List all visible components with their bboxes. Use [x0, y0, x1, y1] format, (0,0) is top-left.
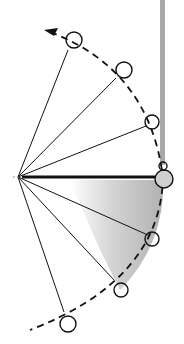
wall-strip: [160, 0, 165, 165]
bob-2: [116, 62, 132, 78]
bob-7: [60, 316, 76, 332]
bob-3: [145, 115, 159, 129]
pendulum-diagram: [0, 0, 184, 344]
bob-1: [66, 32, 82, 48]
pivot-point: [13, 176, 15, 178]
bob-4: [155, 170, 173, 188]
